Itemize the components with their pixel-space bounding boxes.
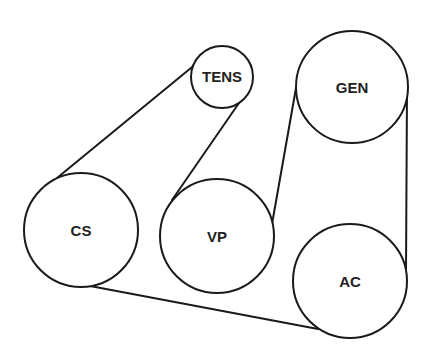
belt-segment-gen-ac xyxy=(406,90,407,270)
pulley-label-vp: VP xyxy=(207,228,227,245)
pulley-label-tens: TENS xyxy=(202,68,242,85)
pulley-label-gen: GEN xyxy=(336,79,369,96)
pulley-tens: TENS xyxy=(191,46,253,108)
pulley-vp: VP xyxy=(160,179,274,293)
pulley-ac: AC xyxy=(293,224,407,338)
pulley-cs: CS xyxy=(24,173,138,287)
belt-routing-diagram: TENS GEN CS VP AC xyxy=(0,0,430,352)
belt-segment-vp-gen xyxy=(272,88,296,224)
pulley-label-cs: CS xyxy=(71,222,92,239)
belt-segment-cs-tens xyxy=(57,63,197,178)
pulley-gen: GEN xyxy=(296,31,408,143)
pulley-label-ac: AC xyxy=(339,273,361,290)
